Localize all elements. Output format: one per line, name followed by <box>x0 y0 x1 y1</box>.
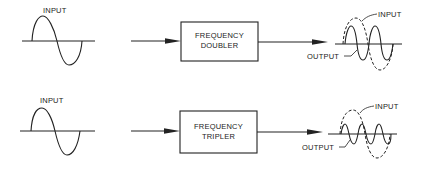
doubler-input-arrow <box>131 38 181 44</box>
tripler-block: FREQUENCY TRIPLER <box>180 111 257 153</box>
doubler-input-leader <box>362 14 377 21</box>
tripler-output-input-label: INPUT <box>375 102 399 111</box>
tripler-output-leader <box>339 140 350 147</box>
tripler-output-sine <box>341 124 391 144</box>
doubler-block-line2: DOUBLER <box>201 41 239 50</box>
tripler-output-label: OUTPUT <box>302 143 334 152</box>
tripler-input-arrow <box>131 128 180 134</box>
tripler-block-line2: TRIPLER <box>202 132 235 141</box>
doubler-input-label: INPUT <box>43 6 67 15</box>
tripler-block-line1: FREQUENCY <box>194 122 243 131</box>
doubler-output-leader <box>344 50 357 56</box>
tripler-output-arrow <box>257 129 323 135</box>
tripler-output-waveform: INPUT OUTPUT <box>302 102 399 158</box>
tripler-input-waveform: INPUT <box>20 96 95 155</box>
doubler-input-waveform: INPUT <box>22 6 95 65</box>
tripler-input-label: INPUT <box>40 96 64 105</box>
doubler-output-arrow <box>258 39 328 45</box>
doubler-output-waveform: INPUT OUTPUT <box>307 10 402 70</box>
doubler-block: FREQUENCY DOUBLER <box>181 22 258 61</box>
doubler-row: INPUT FREQUENCY DOUBLER <box>22 6 402 70</box>
tripler-input-leader <box>360 106 374 113</box>
tripler-row: INPUT FREQUENCY TRIPLER <box>20 96 399 158</box>
doubler-block-line1: FREQUENCY <box>195 31 244 40</box>
doubler-output-input-label: INPUT <box>378 10 402 19</box>
frequency-multiplier-diagram: INPUT FREQUENCY DOUBLER <box>0 0 425 171</box>
doubler-output-label: OUTPUT <box>307 52 339 61</box>
